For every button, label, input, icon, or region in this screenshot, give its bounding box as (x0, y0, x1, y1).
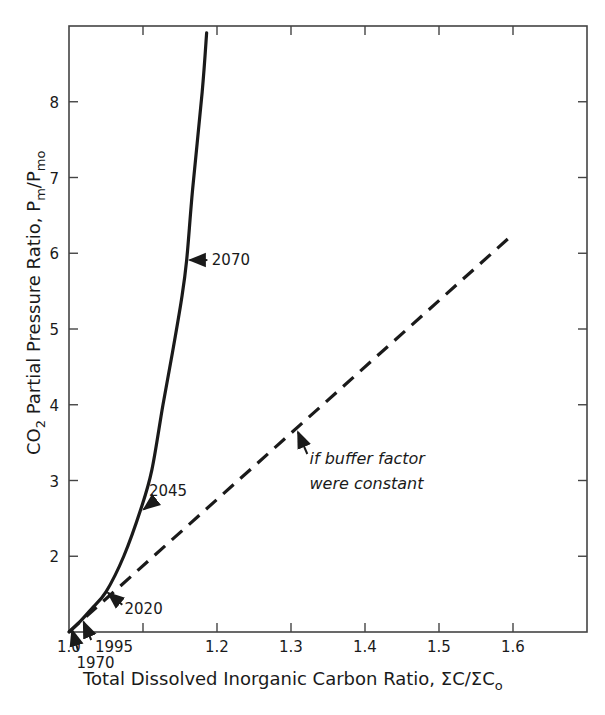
axis-tick-labels: 1.01.21.31.41.51.62345678 (49, 94, 524, 656)
y-tick-label: 7 (49, 170, 59, 188)
label-2045: 2045 (149, 482, 187, 500)
label-1995: 1995 (95, 638, 133, 656)
x-tick-label: 1.5 (427, 638, 451, 656)
x-tick-label: 1.4 (353, 638, 377, 656)
label-2070: 2070 (212, 251, 250, 269)
plot-frame (69, 26, 587, 632)
arrow-2045 (144, 500, 156, 509)
arrow-constant-buffer (298, 432, 307, 454)
dashed-line-constant-buffer (69, 234, 513, 632)
x-tick-label: 1.2 (205, 638, 229, 656)
y-tick-label: 3 (49, 473, 59, 491)
data-series (69, 33, 513, 632)
chart-svg: 1.01.21.31.41.51.62345678 19701995202020… (0, 0, 605, 715)
axis-ticks (69, 26, 587, 632)
plot-border (69, 26, 587, 632)
y-tick-label: 6 (49, 245, 59, 263)
y-axis-title: CO2 Partial Pressure Ratio, Pm/Pmo (23, 151, 48, 455)
y-tick-label: 8 (49, 94, 59, 112)
annotations: 19701995202020452070if buffer factorwere… (72, 251, 426, 672)
chart-container: 1.01.21.31.41.51.62345678 19701995202020… (0, 0, 605, 715)
y-tick-label: 5 (49, 321, 59, 339)
x-axis-title: Total Dissolved Inorganic Carbon Ratio, … (82, 668, 503, 693)
label-2020: 2020 (125, 600, 163, 618)
y-tick-label: 2 (49, 548, 59, 566)
solid-curve-actual (69, 33, 207, 632)
arrow-2020 (108, 593, 122, 605)
arrow-1995 (84, 622, 92, 640)
x-tick-label: 1.6 (501, 638, 525, 656)
label-constant-line1: if buffer factor (310, 449, 427, 468)
x-tick-label: 1.3 (279, 638, 303, 656)
label-constant-line2: were constant (310, 474, 425, 493)
y-tick-label: 4 (49, 397, 59, 415)
